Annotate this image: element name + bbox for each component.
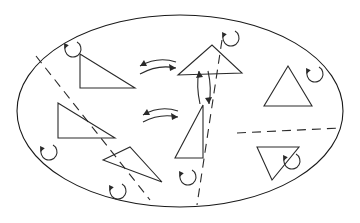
rotation-marker-left xyxy=(40,145,57,160)
exchange-arrows-top-head-forward-icon xyxy=(169,64,176,71)
rotation-marker-top-left xyxy=(64,42,81,57)
rotation-marker-bottom-center-head-icon xyxy=(179,171,184,177)
rotation-marker-bottom-right-head-icon xyxy=(283,155,288,161)
partition-right xyxy=(237,128,340,133)
partition-layer xyxy=(36,40,340,205)
exchange-arrows-middle xyxy=(143,109,178,122)
exchange-arrows-vertical xyxy=(196,71,212,104)
rotation-marker-bottom-center xyxy=(179,170,196,185)
exchange-arrow-layer xyxy=(140,60,212,122)
rotation-marker-bottom-left xyxy=(109,184,126,199)
rotation-marker-top-right xyxy=(222,31,239,46)
triangle-left xyxy=(58,103,115,138)
rotation-marker-left-arc-icon xyxy=(41,145,57,160)
triangle-right-lower xyxy=(257,147,299,180)
rotation-marker-right-head-icon xyxy=(306,68,311,74)
rotation-marker-left-head-icon xyxy=(40,146,45,152)
diagram-canvas xyxy=(0,0,360,223)
exchange-arrows-vertical-head-back-icon xyxy=(205,97,212,104)
rotation-marker-top-right-arc-icon xyxy=(223,31,239,46)
partition-left xyxy=(36,56,150,200)
partition-center xyxy=(197,40,222,205)
exchange-arrows-middle-head-forward-icon xyxy=(171,113,178,120)
triangle-upper-left xyxy=(80,54,135,88)
rotation-marker-top-left-head-icon xyxy=(64,43,69,49)
rotation-marker-right xyxy=(306,67,323,82)
rotation-marker-top-left-arc-icon xyxy=(65,42,81,57)
rotation-marker-bottom-left-head-icon xyxy=(109,185,114,191)
triangle-center xyxy=(175,105,203,158)
rotation-marker-top-right-head-icon xyxy=(222,32,227,38)
triangle-layer xyxy=(58,45,312,182)
exchange-arrows-top xyxy=(140,60,176,74)
rotation-marker-bottom-left-arc-icon xyxy=(110,184,126,199)
rotation-marker-right-arc-icon xyxy=(307,67,323,82)
triangle-upper-center xyxy=(178,45,242,75)
rotation-marker-bottom-center-arc-icon xyxy=(180,170,196,185)
diagram-svg xyxy=(0,0,360,223)
triangle-right-upper xyxy=(264,66,312,106)
